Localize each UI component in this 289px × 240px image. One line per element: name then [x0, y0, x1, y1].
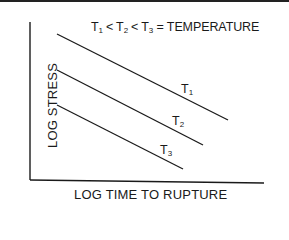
- label-sub: 2: [180, 120, 184, 129]
- title-sub: 3: [149, 26, 153, 35]
- title-sub: 2: [124, 26, 128, 35]
- title-lt: <: [106, 20, 113, 34]
- label-t: T: [181, 82, 189, 96]
- legend-title: T1<T2<T3 = TEMPERATURE: [91, 20, 259, 35]
- title-lt: <: [131, 20, 138, 34]
- title-t: T: [91, 20, 99, 34]
- title-t: T: [141, 20, 149, 34]
- label-sub: 3: [168, 149, 172, 158]
- label-t: T: [172, 114, 180, 128]
- x-axis: [30, 180, 264, 183]
- curve-label-t3: T3: [160, 143, 172, 158]
- label-sub: 1: [189, 88, 193, 97]
- y-axis-label: LOG STRESS: [45, 56, 60, 156]
- label-t: T: [160, 143, 168, 157]
- title-rest: = TEMPERATURE: [157, 20, 260, 34]
- curve-label-t2: T2: [172, 114, 184, 129]
- curve-t1: [57, 34, 228, 120]
- title-t: T: [116, 20, 124, 34]
- curve-t3: [57, 105, 183, 169]
- title-sub: 1: [99, 26, 103, 35]
- curve-label-t1: T1: [181, 82, 193, 97]
- x-axis-label: LOG TIME TO RUPTURE: [74, 187, 227, 202]
